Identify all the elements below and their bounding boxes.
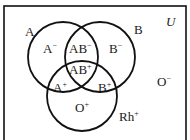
region-label-b-neg: B− — [109, 41, 123, 56]
set-a-label: A — [25, 24, 35, 39]
universe-label: U — [166, 14, 177, 29]
region-label-o-neg: O− — [157, 74, 171, 89]
venn-diagram: U A B Rh+ A−AB−B−AB+A+B+O+O− — [0, 0, 190, 140]
set-b-label: B — [134, 22, 143, 37]
region-label-o-pos: O+ — [75, 100, 89, 115]
region-label-ab-neg: AB− — [69, 41, 92, 56]
region-label-a-neg: A− — [43, 41, 57, 56]
region-labels: A−AB−B−AB+A+B+O+O− — [43, 41, 171, 115]
region-label-ab-pos: AB+ — [69, 62, 92, 77]
region-label-b-pos: B+ — [98, 80, 112, 95]
set-rh-label: Rh+ — [119, 109, 139, 124]
